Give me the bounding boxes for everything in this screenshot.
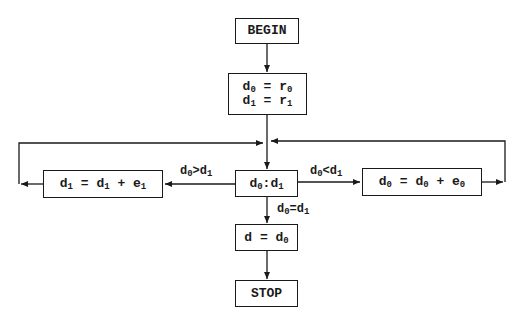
- init-line-1: d0 = r0: [243, 80, 293, 94]
- update-d0-expression: d0 = d0 + e0: [379, 175, 465, 189]
- assign-expression: d = d0: [244, 231, 288, 245]
- update-d0-node: d0 = d0 + e0: [362, 168, 482, 196]
- edge-label-less: d0<d1: [310, 164, 342, 178]
- compare-expression: d0:d1: [249, 177, 283, 191]
- edge-label-greater: d0>d1: [180, 164, 212, 178]
- begin-node: BEGIN: [235, 18, 299, 44]
- init-node: d0 = r0 d1 = r1: [228, 73, 307, 115]
- update-d1-expression: d1 = d1 + e1: [60, 177, 146, 191]
- compare-node: d0:d1: [235, 170, 298, 197]
- stop-label: STOP: [251, 287, 282, 301]
- update-d1-node: d1 = d1 + e1: [43, 170, 163, 198]
- assign-node: d = d0: [235, 224, 298, 251]
- edge-label-equal: d0=d1: [277, 202, 309, 216]
- stop-node: STOP: [235, 280, 298, 307]
- begin-label: BEGIN: [247, 24, 286, 38]
- connector-lines: [0, 0, 523, 326]
- init-line-2: d1 = r1: [243, 94, 293, 108]
